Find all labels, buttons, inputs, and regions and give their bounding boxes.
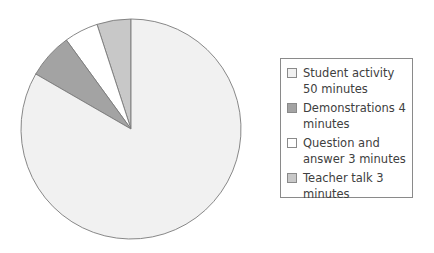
legend-swatch <box>287 173 297 183</box>
pie-chart <box>0 0 270 253</box>
legend-item-demonstrations: Demonstrations 4 minutes <box>287 100 408 132</box>
legend-item-question-and-answer: Question and answer 3 minutes <box>287 135 408 167</box>
legend-label: Student activity 50 minutes <box>303 65 408 97</box>
chart-legend: Student activity 50 minutes Demonstratio… <box>280 58 413 198</box>
legend-label: Demonstrations 4 minutes <box>303 100 408 132</box>
legend-swatch <box>287 138 297 148</box>
legend-item-teacher-talk: Teacher talk 3 minutes <box>287 170 408 202</box>
legend-item-student-activity: Student activity 50 minutes <box>287 65 408 97</box>
legend-swatch <box>287 103 297 113</box>
legend-label: Teacher talk 3 minutes <box>303 170 408 202</box>
legend-label: Question and answer 3 minutes <box>303 135 408 167</box>
legend-swatch <box>287 68 297 78</box>
